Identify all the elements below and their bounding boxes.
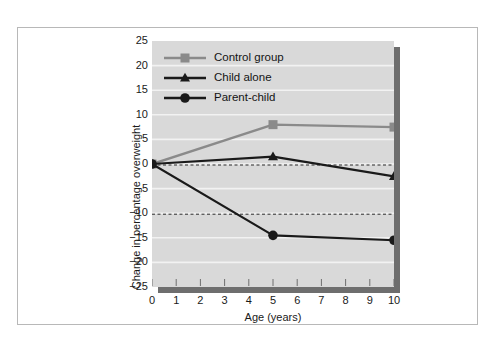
x-tick-marks-group [152,279,394,286]
x-tick-label: 7 [318,294,324,306]
legend-label: Child alone [214,71,272,84]
square-marker-icon [269,120,278,129]
x-tick-label: 3 [222,294,228,306]
legend-label: Parent-child [214,91,275,104]
series-line [152,164,394,240]
x-tick-label: 8 [343,294,349,306]
x-tick-label: 10 [388,294,400,306]
x-tick-label: 2 [197,294,203,306]
legend-item[interactable]: Parent-child [162,88,312,108]
y-axis-title: Change in percentage overweight [130,112,142,302]
x-tick-label: 4 [246,294,252,306]
square-marker-icon [181,54,190,63]
x-tick-label: 1 [173,294,179,306]
square-marker-icon [390,123,395,132]
x-tick-label: 6 [294,294,300,306]
legend-sample-square [162,48,208,68]
y-tick-label: 15 [122,84,148,95]
legend-sample-triangle [162,68,208,88]
x-axis-tick-labels: 012345678910 [152,294,394,310]
y-tick-label: 20 [122,60,148,71]
circle-marker-icon [180,93,190,103]
chart-legend: Control groupChild aloneParent-child [162,48,312,108]
circle-marker-icon [268,231,278,241]
x-tick-label: 9 [367,294,373,306]
chart-figure: 2520151050−5−10−15−20−25 012345678910 Ag… [0,0,498,352]
legend-label: Control group [214,51,284,64]
legend-item[interactable]: Child alone [162,68,312,88]
x-tick-label: 0 [149,294,155,306]
y-tick-label: 25 [122,35,148,46]
x-axis-title: Age (years) [152,311,394,323]
reference-lines-group [152,165,394,214]
legend-sample-circle [162,88,208,108]
circle-marker-icon [389,235,394,245]
y-axis-title-wrapper: Change in percentage overweight [104,41,118,287]
x-tick-label: 5 [270,294,276,306]
legend-item[interactable]: Control group [162,48,312,68]
